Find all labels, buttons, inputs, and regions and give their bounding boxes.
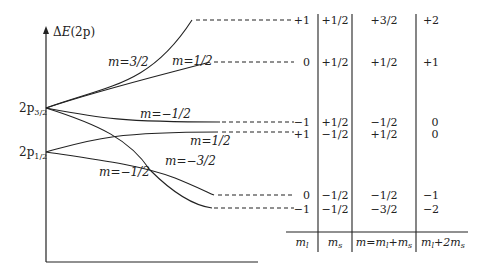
table-row: −1 −1/2 −3/2 −2	[294, 203, 439, 216]
svg-text:−2: −2	[423, 203, 439, 216]
header-m-sum: m=ml+ms	[356, 236, 412, 250]
header-ml: ml	[296, 236, 309, 250]
svg-text:0: 0	[303, 56, 310, 69]
curve-label: m=−3/2	[165, 154, 216, 168]
curves	[46, 20, 220, 208]
header-ml-2ms: ml+2ms	[421, 236, 465, 250]
level-label-2p3-2: 2p3/2	[19, 101, 47, 117]
table: +1 +1/2 +3/2 +2 0 +1/2 +1/2 +1 −1 +1/2 −…	[294, 14, 465, 250]
svg-text:+1: +1	[294, 14, 310, 27]
table-row: +1 −1/2 +1/2 0	[294, 128, 439, 141]
curve-2p32-m-1-2	[46, 108, 220, 122]
svg-text:+1/2: +1/2	[322, 14, 349, 27]
header-ms: ms	[328, 236, 343, 250]
curve-label: m=3/2	[108, 55, 149, 69]
table-row: +1 +1/2 +3/2 +2	[294, 14, 439, 27]
svg-text:+1/2: +1/2	[371, 56, 398, 69]
svg-text:−3/2: −3/2	[371, 203, 398, 216]
table-header: ml ms m=ml+ms ml+2ms	[296, 236, 465, 250]
curve-label: m=−1/2	[140, 107, 191, 121]
table-row: −1 +1/2 −1/2 0	[294, 116, 439, 129]
svg-text:+3/2: +3/2	[371, 14, 398, 27]
svg-text:+1: +1	[294, 128, 310, 141]
svg-text:+2: +2	[423, 14, 439, 27]
svg-text:+1/2: +1/2	[371, 128, 398, 141]
curve-label: m=1/2	[190, 134, 231, 148]
curve-label: m=−1/2	[99, 165, 150, 179]
svg-text:0: 0	[303, 189, 310, 202]
curve-label: m=1/2	[172, 54, 213, 68]
svg-text:0: 0	[432, 128, 439, 141]
level-label-2p1-2: 2p1/2	[19, 145, 47, 161]
svg-text:−1: −1	[423, 189, 439, 202]
y-axis-arrow-icon	[43, 26, 49, 34]
zeeman-diagram: ΔE(2p) 2p3/2 2p1/2 m=3/2 m=1/2 m=−1/2 m=…	[0, 0, 488, 274]
svg-text:−1/2: −1/2	[322, 128, 349, 141]
svg-text:−1: −1	[294, 203, 310, 216]
svg-text:+1/2: +1/2	[322, 56, 349, 69]
table-row: 0 −1/2 −1/2 −1	[303, 189, 439, 202]
svg-text:−1/2: −1/2	[322, 203, 349, 216]
table-row: 0 +1/2 +1/2 +1	[303, 56, 439, 69]
svg-text:+1: +1	[423, 56, 439, 69]
svg-text:−1/2: −1/2	[371, 189, 398, 202]
dashed-lines	[196, 20, 294, 208]
y-axis-label: ΔE(2p)	[53, 25, 95, 39]
svg-text:−1/2: −1/2	[322, 189, 349, 202]
